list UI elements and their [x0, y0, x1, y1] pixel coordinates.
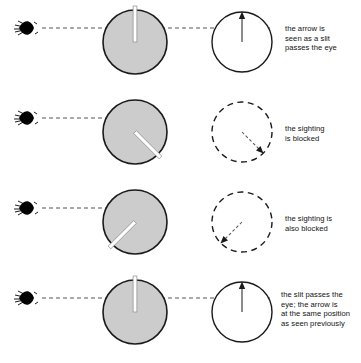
caption-row-4: the slit passes the eye; the arrow is at… — [281, 290, 361, 328]
row-2 — [14, 100, 272, 164]
slitted-disk — [103, 276, 167, 344]
caption-row-1: the arrow is seen as a slit passes the e… — [285, 24, 361, 53]
disk-slit — [133, 276, 137, 312]
observed-view — [212, 282, 272, 343]
slitted-disk — [103, 100, 167, 164]
eye-icon — [14, 201, 38, 215]
observed-view — [212, 12, 272, 73]
view-arrow — [240, 130, 266, 156]
view-arrow — [218, 220, 244, 246]
eye-icon — [14, 111, 38, 125]
caption-row-2: the sighting is blocked — [285, 124, 361, 143]
eye-icon — [14, 291, 38, 305]
diagram-canvas: the arrow is seen as a slit passes the e… — [0, 0, 361, 363]
slitted-disk — [103, 6, 167, 74]
caption-row-3: the sighting is also blocked — [285, 214, 361, 233]
observed-view — [212, 192, 272, 252]
observed-view — [212, 102, 272, 162]
slitted-disk — [103, 190, 167, 254]
row-3 — [14, 190, 272, 254]
eye-icon — [14, 21, 38, 35]
disk-slit — [133, 6, 137, 42]
row-1 — [14, 6, 272, 74]
row-4 — [14, 276, 272, 344]
